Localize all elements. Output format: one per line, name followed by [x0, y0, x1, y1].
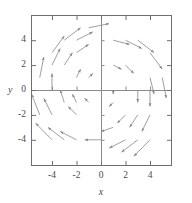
field-vector — [142, 115, 150, 131]
x-tick-label: -4 — [48, 171, 56, 181]
field-vector — [32, 94, 40, 115]
field-vector — [89, 73, 93, 77]
axis-lines-group — [32, 16, 171, 165]
field-vector — [36, 123, 52, 139]
vector-arrows-group — [32, 24, 167, 157]
x-tick-label: 4 — [148, 171, 153, 181]
vector-field-figure: -4-2024420-2-4 x y — [0, 0, 192, 203]
field-vector — [101, 127, 113, 131]
field-vector — [72, 94, 76, 102]
field-vector — [113, 65, 121, 69]
field-vector — [134, 140, 150, 156]
x-axis-title: x — [99, 187, 103, 197]
field-vector — [68, 107, 76, 115]
y-tick-label: 0 — [14, 85, 26, 95]
field-vector — [77, 69, 81, 77]
y-tick-label: 4 — [14, 35, 26, 45]
y-axis-title: y — [8, 85, 12, 95]
field-vector — [64, 28, 80, 40]
field-vector — [150, 53, 162, 69]
field-vector — [109, 140, 125, 148]
field-vector — [126, 65, 134, 73]
field-vector — [89, 24, 109, 28]
field-vector — [122, 140, 138, 152]
field-vector — [60, 90, 64, 102]
field-vector — [130, 115, 138, 127]
field-vector — [85, 98, 89, 102]
field-vector — [64, 53, 72, 65]
vector-field-canvas — [0, 0, 192, 203]
field-vector — [77, 44, 89, 52]
field-vector — [109, 102, 113, 106]
y-tick-label: -4 — [14, 135, 26, 145]
field-vector — [44, 98, 52, 114]
x-tick-label: 2 — [123, 171, 128, 181]
field-vector — [138, 40, 154, 52]
y-tick-label: -2 — [14, 110, 26, 120]
x-tick-label: 0 — [99, 171, 104, 181]
field-vector — [150, 78, 154, 94]
y-tick-label: 2 — [14, 60, 26, 70]
field-vector — [52, 36, 64, 52]
x-tick-label: -2 — [73, 171, 81, 181]
field-vector — [40, 57, 44, 78]
field-vector — [162, 78, 166, 99]
field-vector — [117, 115, 125, 123]
field-vector — [77, 32, 93, 40]
